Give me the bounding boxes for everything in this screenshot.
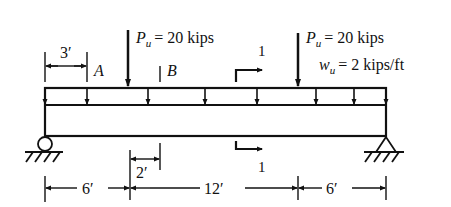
beam: [45, 88, 386, 136]
span-right-label: 6′: [326, 180, 338, 197]
pin-support-left: [25, 137, 63, 162]
distributed-load-arrows: [45, 88, 386, 104]
beam-diagram: Pu= 20 kips Pu= 20 kips wu= 2 kips/ft 3′…: [0, 0, 451, 207]
point-a-label: A: [93, 62, 104, 79]
span-left-label: 6′: [82, 180, 94, 197]
point-load-2-label: Pu= 20 kips: [305, 29, 384, 49]
distributed-load-label: wu= 2 kips/ft: [319, 56, 405, 76]
pin-support-right: [364, 137, 404, 162]
span-middle-label: 12′: [204, 180, 224, 197]
section-cut-bottom-arrow: [236, 141, 262, 149]
point-b-label: B: [167, 62, 177, 79]
dimension-2ft-label: 2′: [136, 164, 148, 181]
dimension-3ft-label: 3′: [60, 44, 72, 61]
beam-outline: [45, 88, 386, 136]
section-cut-bottom-label: 1: [258, 159, 266, 175]
point-load-1-label: Pu= 20 kips: [135, 29, 214, 49]
section-cut-top-arrow: [236, 70, 262, 82]
section-cut-top-label: 1: [258, 43, 266, 59]
